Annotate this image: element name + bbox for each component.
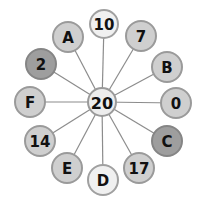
outer-node: C (152, 126, 182, 156)
outer-node-label: 2 (36, 56, 46, 74)
outer-node-label: 0 (171, 95, 181, 113)
outer-node: 14 (25, 126, 55, 156)
outer-node: 17 (124, 153, 154, 183)
outer-node-label: D (97, 172, 109, 190)
outer-node-label: 14 (30, 133, 51, 151)
outer-node: 0 (161, 88, 191, 118)
outer-node: D (88, 165, 118, 195)
outer-node-label: C (161, 133, 172, 151)
outer-node: F (15, 87, 45, 117)
outer-node-label: 17 (129, 160, 150, 178)
outer-node: A (53, 22, 83, 52)
outer-node: 7 (126, 21, 156, 51)
outer-node-label: 7 (136, 28, 146, 46)
outer-node: 2 (26, 49, 56, 79)
outer-node-label: A (62, 29, 74, 47)
outer-node-label: E (62, 160, 72, 178)
outer-node-label: B (161, 59, 172, 77)
outer-node-label: 10 (94, 16, 115, 34)
center-node-label: 20 (91, 94, 113, 113)
outer-node: E (52, 153, 82, 183)
outer-node-label: F (25, 94, 35, 112)
outer-node: B (152, 52, 182, 82)
wheel-diagram: 107B0C17DE14F2A 20 (0, 0, 201, 203)
center-node: 20 (88, 88, 116, 116)
outer-node: 10 (90, 10, 118, 38)
